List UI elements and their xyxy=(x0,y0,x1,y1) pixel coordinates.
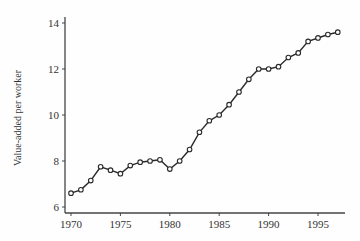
x-tick-label: 1995 xyxy=(307,218,330,230)
line-chart: 68101214 197019751980198519901995 Value-… xyxy=(0,0,360,241)
data-point-marker xyxy=(177,159,182,164)
data-point-marker xyxy=(98,164,103,169)
data-point-marker xyxy=(79,187,84,192)
data-point-marker xyxy=(148,159,153,164)
data-point-marker xyxy=(118,171,123,176)
data-point-marker xyxy=(296,51,301,56)
data-point-marker xyxy=(286,55,291,60)
data-point-marker xyxy=(158,158,163,163)
x-tick-label: 1970 xyxy=(60,218,83,230)
data-point-marker xyxy=(326,32,331,37)
data-point-marker xyxy=(197,130,202,135)
data-point-marker xyxy=(168,167,173,172)
y-tick-label: 10 xyxy=(48,109,60,121)
data-point-marker xyxy=(276,64,281,69)
x-tick-label: 1975 xyxy=(109,218,132,230)
y-axis-label: Value-added per worker xyxy=(12,69,23,166)
data-point-marker xyxy=(266,67,271,72)
y-axis: 68101214 xyxy=(48,17,65,213)
data-point-marker xyxy=(128,163,133,168)
data-point-marker xyxy=(69,191,74,196)
data-point-marker xyxy=(335,30,340,35)
plot-area xyxy=(69,30,340,196)
y-tick-label: 6 xyxy=(54,201,60,213)
data-point-marker xyxy=(316,36,321,41)
y-tick-label: 8 xyxy=(54,155,60,167)
data-point-marker xyxy=(247,77,252,82)
data-point-marker xyxy=(237,90,242,95)
x-axis: 197019751980198519901995 xyxy=(60,213,345,230)
data-point-marker xyxy=(256,67,261,72)
data-point-marker xyxy=(138,160,143,165)
data-point-marker xyxy=(108,168,113,173)
data-point-marker xyxy=(227,102,232,107)
x-tick-label: 1985 xyxy=(208,218,231,230)
data-point-marker xyxy=(306,39,311,44)
y-tick-label: 14 xyxy=(48,17,60,29)
x-tick-label: 1980 xyxy=(159,218,182,230)
y-tick-label: 12 xyxy=(48,63,59,75)
data-point-marker xyxy=(217,113,222,118)
data-point-marker xyxy=(88,178,93,183)
x-tick-label: 1990 xyxy=(258,218,281,230)
data-point-marker xyxy=(207,118,212,123)
data-point-marker xyxy=(187,147,192,152)
